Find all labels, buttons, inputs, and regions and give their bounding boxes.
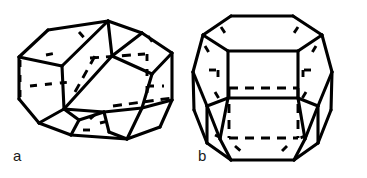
figure-label-b: b xyxy=(198,148,206,163)
panel-b-tetrakaidecahedron: b xyxy=(185,0,367,178)
figure-root: a xyxy=(0,0,367,178)
panel-a-irregular-polyhedron: a xyxy=(0,0,185,178)
figure-label-a: a xyxy=(13,148,21,163)
polyhedron-a-drawing xyxy=(0,0,185,178)
polyhedron-b-drawing xyxy=(185,0,367,178)
visible-edges-a xyxy=(19,21,172,139)
